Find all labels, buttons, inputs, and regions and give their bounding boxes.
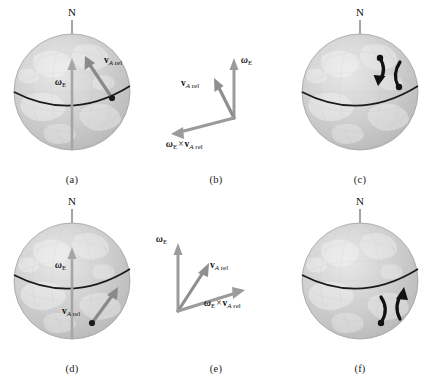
omega-label-a: ωE [55,78,66,89]
globe-c [288,0,432,168]
velocity-label-d: vA rel [62,307,80,318]
globe-d [0,189,144,357]
cross-product-label-e: ωE×vA rel [204,299,241,310]
panel-c: N (c) [288,0,432,189]
pole-label-d: N [62,195,82,207]
panel-caption-f: (f) [288,363,432,374]
vector-triad-e [144,189,288,357]
coriolis-figure: N ωE vA rel (a) [0,0,432,378]
panel-caption-a: (a) [0,174,144,185]
panel-a-stage: N ωE vA rel [0,0,144,168]
pole-label-c: N [350,6,370,18]
omega-label-e: ωE [156,235,167,246]
omega-vector-e [174,243,183,311]
panel-f-stage: N [288,189,432,357]
panel-a: N ωE vA rel (a) [0,0,144,189]
panel-caption-e: (e) [144,363,288,374]
pole-label-f: N [350,195,370,207]
panel-f: N (f) [288,189,432,378]
panel-e-stage: ωE vA rel ωE×vA rel [144,189,288,357]
panel-d-stage: N ωE vA rel [0,189,144,357]
panel-caption-c: (c) [288,174,432,185]
velocity-label-a: vA rel [104,56,122,67]
panel-d: N ωE vA rel (d) [0,189,144,378]
globe-f [288,189,432,357]
panel-b-stage: ωE vA rel ωE×vA rel [144,0,288,168]
omega-label-b: ωE [241,56,252,67]
panel-e: ωE vA rel ωE×vA rel (e) [144,189,288,378]
omega-label-d: ωE [55,261,66,272]
velocity-vector-b [214,78,234,118]
cross-product-label-b: ωE×vA rel [166,140,203,151]
globe-a [0,0,144,168]
panel-b: ωE vA rel ωE×vA rel (b) [144,0,288,189]
panel-c-stage: N [288,0,432,168]
cross-product-vector-b [171,118,234,139]
panel-caption-b: (b) [144,174,288,185]
velocity-label-e: vA rel [210,261,228,272]
velocity-label-b: vA rel [181,79,199,90]
panel-caption-d: (d) [0,363,144,374]
pole-label-a: N [62,6,82,18]
